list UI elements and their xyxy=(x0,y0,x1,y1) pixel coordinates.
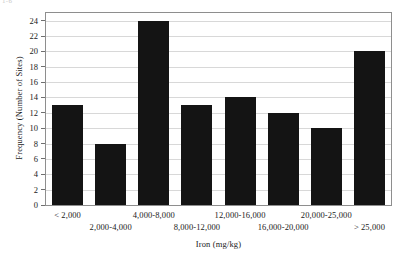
x-axis-tick-labels: < 2,0002,000-4,0004,000-8,0008,000-12,00… xyxy=(45,208,392,238)
y-axis-tick-label: 12 xyxy=(30,108,42,118)
y-axis-tick: 12 xyxy=(30,108,46,118)
y-axis-tick: 2 xyxy=(34,185,45,195)
y-axis-tick: 16 xyxy=(30,77,46,87)
bar-series xyxy=(46,13,391,205)
bar xyxy=(181,105,212,205)
x-axis-tick-label: 20,000-25,000 xyxy=(286,210,366,220)
bar xyxy=(268,113,299,205)
y-axis-tick: 14 xyxy=(30,92,46,102)
x-axis-tick-label: 4,000-8,000 xyxy=(114,210,194,220)
y-axis-tick-label: 2 xyxy=(34,185,41,195)
y-axis-tick-label: 14 xyxy=(30,92,42,102)
bar-chart-figure: 1-6 Frequency (Number of Sites) 02468101… xyxy=(0,0,405,256)
bar xyxy=(138,21,169,205)
y-axis-tick: 24 xyxy=(30,16,46,26)
y-axis-tick-label: 20 xyxy=(30,46,42,56)
y-axis-tick-label: 6 xyxy=(34,154,41,164)
bar xyxy=(354,51,385,205)
y-axis-tick-label: 10 xyxy=(30,123,42,133)
y-axis-tick-label: 18 xyxy=(30,62,42,72)
y-axis-tick: 0 xyxy=(34,200,45,210)
bar xyxy=(225,97,256,205)
y-axis-tick: 22 xyxy=(30,31,46,41)
bar xyxy=(95,144,126,205)
bar xyxy=(311,128,342,205)
y-axis-tick-label: 8 xyxy=(34,139,41,149)
y-axis-tick: 8 xyxy=(34,139,45,149)
x-axis-tick-label: 16,000-20,000 xyxy=(243,222,323,232)
y-axis-tick-label: 16 xyxy=(30,77,42,87)
x-axis-tick-label: > 25,000 xyxy=(329,222,405,232)
bar xyxy=(52,105,83,205)
y-axis-tick: 18 xyxy=(30,62,46,72)
y-axis-tick-label: 0 xyxy=(34,200,41,210)
y-axis-tick-label: 4 xyxy=(34,169,41,179)
x-axis-tick-label: 12,000-16,000 xyxy=(200,210,280,220)
x-axis-title: Iron (mg/kg) xyxy=(45,239,392,249)
y-axis-tick-label: 24 xyxy=(30,16,42,26)
x-axis-tick-label: < 2,000 xyxy=(28,210,108,220)
x-axis-tick-label: 8,000-12,000 xyxy=(157,222,237,232)
y-axis-tick: 4 xyxy=(34,169,45,179)
y-axis-tick-label: 22 xyxy=(30,31,42,41)
y-axis-tick: 6 xyxy=(34,154,45,164)
y-axis-tick: 20 xyxy=(30,46,46,56)
y-axis-tick: 10 xyxy=(30,123,46,133)
x-axis-tick-label: 2,000-4,000 xyxy=(71,222,151,232)
